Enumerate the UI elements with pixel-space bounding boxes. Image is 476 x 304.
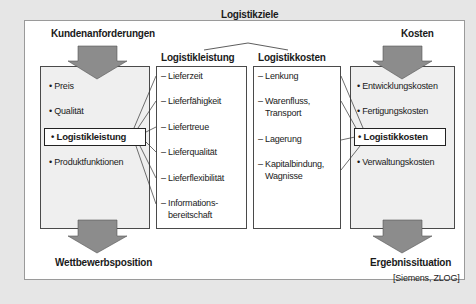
list-item: • Preis	[49, 80, 74, 92]
list-item: – Liefertreue	[161, 121, 209, 133]
title-kundenanforderungen: Kundenanforderungen	[51, 28, 155, 39]
title-logistikleistung: Logistikleistung	[161, 52, 234, 63]
title-kosten: Kosten	[401, 28, 434, 39]
list-item: – Informations-	[161, 197, 218, 209]
highlight-logistikleistung: • Logistikleistung	[44, 128, 146, 146]
highlight-logistikkosten: • Logistikkosten	[354, 128, 446, 146]
list-item: – Lieferzeit	[161, 70, 203, 82]
result-wettbewerbsposition: Wettbewerbsposition	[55, 257, 152, 268]
list-item-continuation: Transport	[265, 107, 301, 119]
list-item-continuation: bereitschaft	[168, 209, 212, 221]
list-item: – Lieferflexibilität	[161, 172, 224, 184]
list-item: – Lieferqualität	[161, 146, 217, 158]
result-ergebnissituation: Ergebnissituation	[370, 257, 451, 268]
list-item-continuation: Wagnisse	[265, 170, 303, 182]
list-item: • Qualität	[49, 105, 84, 117]
list-item: – Warenfluss,	[258, 95, 310, 107]
logistikkosten-box	[253, 66, 341, 229]
list-item: • Verwaltungskosten	[357, 156, 434, 168]
title-logistikkosten: Logistikkosten	[258, 52, 326, 63]
list-item: – Lagerung	[258, 133, 302, 145]
list-item: – Lieferfähigkeit	[161, 95, 221, 107]
list-item: • Fertigungskosten	[357, 105, 428, 117]
title-logistikziele: Logistikziele	[221, 9, 278, 20]
list-item: – Kapitalbindung,	[258, 158, 324, 170]
list-item: • Produktfunktionen	[49, 156, 123, 168]
list-item: • Entwicklungskosten	[357, 80, 438, 92]
list-item: – Lenkung	[258, 70, 298, 82]
source-citation: [Siemens, ZLOG]	[393, 273, 460, 283]
